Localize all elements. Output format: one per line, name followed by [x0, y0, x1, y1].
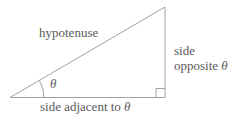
- adjacent-side-label: side adjacent to θ: [40, 99, 131, 114]
- theta-symbol: θ: [124, 99, 130, 114]
- opposite-label-line2: opposite θ: [174, 58, 228, 73]
- hypotenuse-line: [10, 7, 165, 98]
- opposite-label-text: opposite: [174, 58, 221, 73]
- angle-arc: [39, 80, 44, 97]
- figure-canvas: hypotenuse θ side opposite θ side adjace…: [0, 0, 236, 116]
- opposite-side-label: side opposite θ: [174, 43, 228, 73]
- hypotenuse-label: hypotenuse: [39, 25, 98, 40]
- angle-theta-label: θ: [50, 76, 56, 91]
- theta-symbol: θ: [50, 76, 56, 91]
- opposite-label-line1: side: [174, 43, 228, 58]
- right-angle-marker: [156, 89, 165, 98]
- adjacent-label-text: side adjacent to: [40, 99, 124, 114]
- theta-symbol: θ: [221, 58, 227, 73]
